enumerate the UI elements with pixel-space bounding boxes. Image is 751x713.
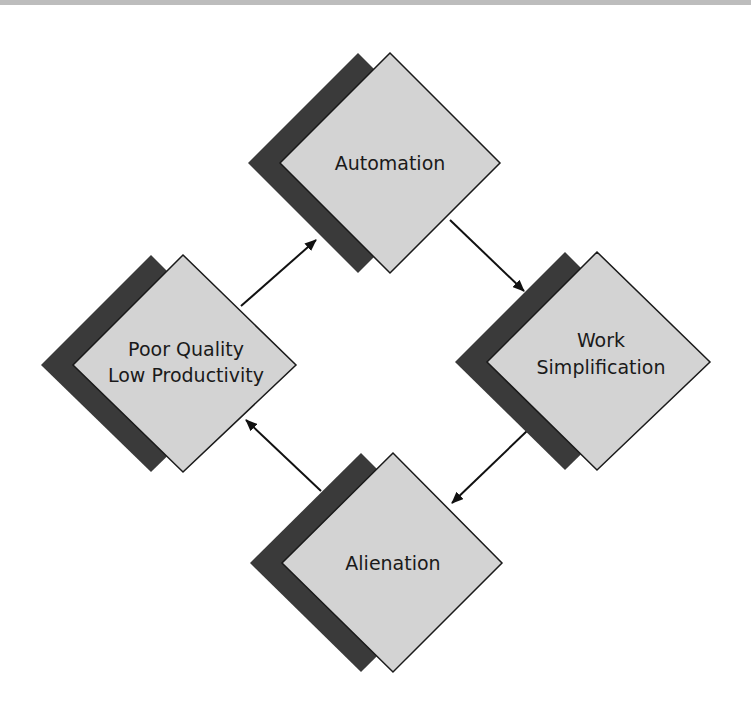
- node-label-line2: Simplification: [537, 356, 666, 378]
- arrow-alienation-to-poor-quality: [246, 420, 321, 491]
- node-automation: Automation: [248, 53, 500, 273]
- svg-text:Alienation: Alienation: [345, 552, 440, 574]
- node-label-line1: Poor Quality: [128, 338, 244, 360]
- node-work-simplification: Work Simplification: [455, 252, 710, 470]
- node-label-line1: Work: [577, 329, 625, 351]
- svg-text:Work: Work: [577, 329, 625, 351]
- node-label: Alienation: [345, 552, 440, 574]
- svg-text:Poor Quality: Poor Quality: [128, 338, 244, 360]
- node-label: Automation: [335, 152, 446, 174]
- svg-text:Low Productivity: Low Productivity: [108, 364, 264, 386]
- node-poor-quality: Poor Quality Low Productivity: [41, 255, 296, 472]
- arrow-work-simplification-to-alienation: [452, 430, 528, 503]
- svg-text:Simplification: Simplification: [537, 356, 666, 378]
- node-alienation: Alienation: [250, 453, 502, 672]
- cycle-diagram: Automation Poor Quality Low Productivity…: [0, 0, 751, 713]
- svg-text:Automation: Automation: [335, 152, 446, 174]
- arrow-automation-to-work-simplification: [450, 220, 524, 291]
- node-label-line2: Low Productivity: [108, 364, 264, 386]
- arrow-poor-quality-to-automation: [241, 240, 316, 306]
